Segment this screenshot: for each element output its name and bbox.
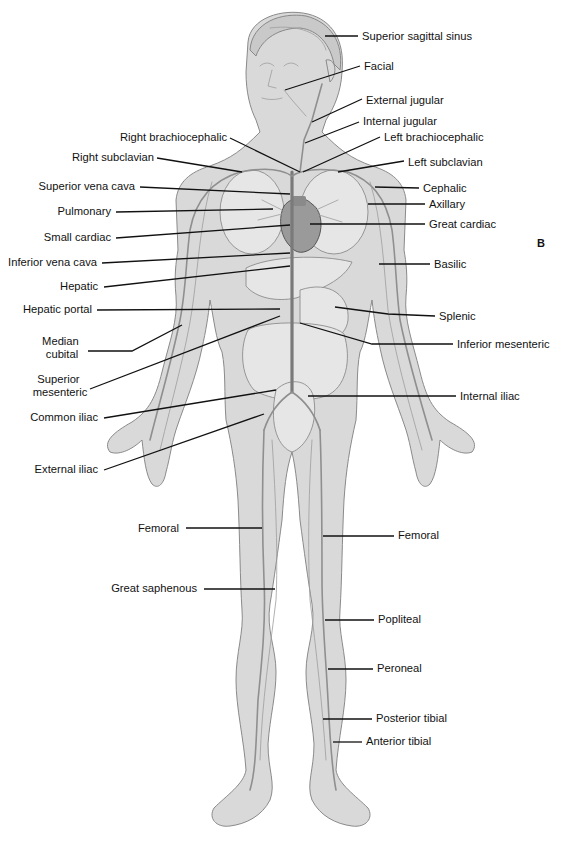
venous-system-diagram: Right brachiocephalic Right subclavian S…	[0, 0, 562, 844]
label-inferior-mesenteric: Inferior mesenteric	[457, 338, 550, 350]
label-anterior-tibial: Anterior tibial	[366, 735, 431, 747]
panel-letter: B	[537, 237, 545, 249]
label-pulmonary: Pulmonary	[58, 205, 112, 217]
label-axillary: Axillary	[429, 198, 465, 210]
aortic-arch	[292, 196, 306, 206]
label-peroneal: Peroneal	[377, 662, 422, 674]
label-median-cubital-line2: cubital	[46, 348, 78, 360]
label-median-cubital-line1: Median	[42, 335, 79, 347]
label-internal-jugular: Internal jugular	[363, 115, 437, 127]
label-right-brachiocephalic: Right brachiocephalic	[120, 131, 227, 143]
label-superior-mesenteric-line1: Superior	[37, 373, 80, 385]
label-hepatic: Hepatic	[60, 280, 98, 292]
leader-median-cubital	[88, 325, 182, 351]
label-left-subclavian: Left subclavian	[408, 156, 483, 168]
labels-right: Superior sagittal sinus Facial External …	[362, 30, 550, 747]
label-internal-iliac: Internal iliac	[460, 390, 520, 402]
label-popliteal: Popliteal	[378, 613, 421, 625]
label-femoral-right: Femoral	[138, 522, 179, 534]
label-superior-mesenteric: Superior mesenteric	[33, 373, 88, 398]
label-femoral-left: Femoral	[398, 529, 439, 541]
label-external-jugular: External jugular	[366, 94, 444, 106]
label-small-cardiac: Small cardiac	[44, 231, 112, 243]
label-basilic: Basilic	[434, 258, 467, 270]
label-external-iliac: External iliac	[35, 463, 99, 475]
label-left-brachiocephalic: Left brachiocephalic	[384, 131, 484, 143]
label-superior-mesenteric-line2: mesenteric	[33, 386, 88, 398]
label-splenic: Splenic	[439, 310, 476, 322]
label-inferior-vena-cava: Inferior vena cava	[8, 256, 98, 268]
label-common-iliac: Common iliac	[30, 411, 98, 423]
label-superior-sagittal-sinus: Superior sagittal sinus	[362, 30, 472, 42]
label-facial: Facial	[364, 60, 394, 72]
label-right-subclavian: Right subclavian	[72, 151, 154, 163]
label-hepatic-portal: Hepatic portal	[23, 303, 92, 315]
label-cephalic: Cephalic	[423, 182, 467, 194]
right-lung	[220, 170, 284, 254]
label-superior-vena-cava: Superior vena cava	[39, 180, 136, 192]
label-great-saphenous: Great saphenous	[111, 582, 197, 594]
label-median-cubital: Median cubital	[42, 335, 82, 360]
label-posterior-tibial: Posterior tibial	[376, 712, 447, 724]
label-great-cardiac: Great cardiac	[429, 218, 497, 230]
